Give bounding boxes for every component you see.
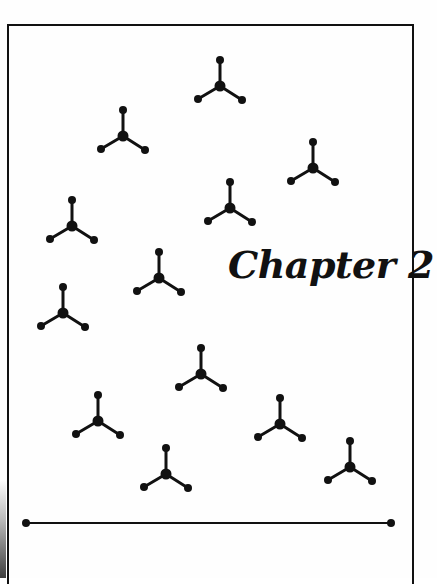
molecule-icon: [37, 283, 89, 331]
molecule-icon: [72, 391, 124, 439]
divider-line: [22, 519, 395, 527]
molecule-icon: [140, 444, 192, 492]
molecule-icon: [324, 437, 376, 485]
molecule-icon: [175, 344, 227, 392]
molecule-icon: [97, 106, 149, 154]
molecule-icon: [194, 56, 246, 104]
molecule-icon: [254, 394, 306, 442]
molecule-icon: [287, 138, 339, 186]
molecule-icon: [204, 178, 256, 226]
molecule-icon: [46, 196, 98, 244]
chapter-title: Chapter 2: [228, 246, 434, 284]
molecule-icon: [133, 248, 185, 296]
